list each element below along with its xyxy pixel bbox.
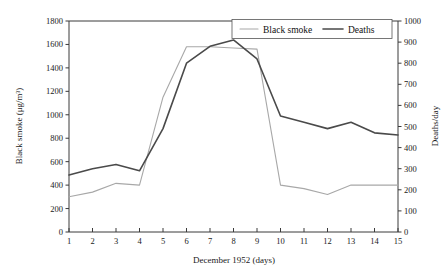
right-tick-label: 0 [404, 227, 408, 237]
right-tick-label: 900 [404, 37, 417, 47]
legend-label-deaths: Deaths [348, 25, 375, 35]
right-tick-label: 400 [404, 143, 417, 153]
right-tick-label: 500 [404, 122, 417, 132]
left-tick-label: 1200 [46, 86, 63, 96]
x-axis-title: December 1952 (days) [193, 255, 275, 265]
right-tick-label: 300 [404, 164, 417, 174]
plot-frame [69, 21, 398, 232]
legend-label-black-smoke: Black smoke [263, 25, 312, 35]
x-tick-label: 4 [137, 236, 142, 246]
left-tick-label: 400 [50, 180, 63, 190]
x-tick-label: 15 [394, 236, 403, 246]
right-tick-label: 100 [404, 206, 417, 216]
right-tick-label: 700 [404, 79, 417, 89]
x-tick-label: 3 [114, 236, 118, 246]
x-tick-label: 9 [255, 236, 259, 246]
left-tick-label: 200 [50, 204, 63, 214]
x-tick-label: 11 [300, 236, 308, 246]
right-tick-label: 600 [404, 100, 417, 110]
x-tick-label: 5 [161, 236, 165, 246]
left-tick-label: 600 [50, 157, 63, 167]
left-tick-label: 1600 [46, 39, 63, 49]
x-tick-label: 12 [323, 236, 332, 246]
left-tick-label: 1400 [46, 63, 63, 73]
left-tick-label: 800 [50, 133, 63, 143]
left-tick-label: 1000 [46, 110, 63, 120]
chart-figure: 020040060080010001200140016001800 010020… [0, 0, 448, 272]
series-line-black-smoke [69, 47, 398, 197]
x-tick-label: 6 [184, 236, 188, 246]
left-tick-label: 0 [59, 227, 63, 237]
right-tick-label: 800 [404, 58, 417, 68]
left-tick-label: 1800 [46, 16, 63, 26]
x-tick-label: 1 [67, 236, 71, 246]
x-tick-label: 7 [208, 236, 212, 246]
right-tick-label: 200 [404, 185, 417, 195]
left-axis-title: Black smoke (μg/m³) [14, 88, 24, 165]
x-tick-label: 14 [370, 236, 379, 246]
x-axis-ticks: 123456789101112131415 [67, 228, 402, 246]
right-axis-title: Deaths/day [430, 105, 440, 146]
chart-legend[interactable]: Black smoke Deaths [232, 20, 392, 39]
right-axis-ticks: 01002003004005006007008009001000 [398, 16, 421, 237]
data-series-group [69, 40, 398, 197]
air-pollution-mortality-line-chart: 020040060080010001200140016001800 010020… [0, 0, 448, 272]
x-tick-label: 8 [231, 236, 235, 246]
series-line-deaths [69, 40, 398, 175]
x-tick-label: 13 [347, 236, 356, 246]
left-axis-ticks: 020040060080010001200140016001800 [46, 16, 69, 237]
x-tick-label: 2 [90, 236, 94, 246]
x-tick-label: 10 [276, 236, 285, 246]
right-tick-label: 1000 [404, 16, 421, 26]
